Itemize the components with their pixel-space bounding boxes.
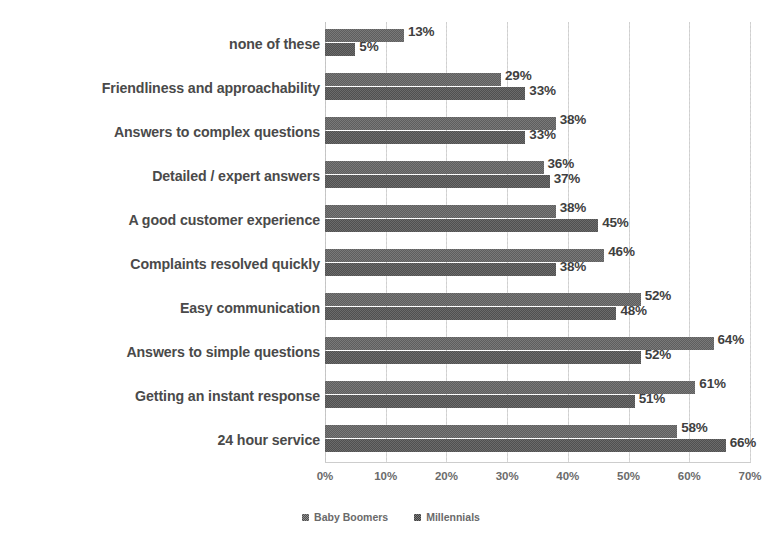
- bar-value-label: 48%: [620, 303, 646, 318]
- bar-millennials: [325, 219, 598, 232]
- bar-baby-boomers: [325, 117, 556, 130]
- bar-millennials: [325, 307, 616, 320]
- bar-value-label: 5%: [359, 39, 378, 54]
- category-label: 24 hour service: [4, 418, 320, 462]
- x-tick-label: 0%: [295, 470, 355, 482]
- bar-millennials: [325, 395, 635, 408]
- bar-millennials: [325, 131, 525, 144]
- category-row: none of these13%5%: [0, 22, 782, 66]
- x-tick-label: 10%: [356, 470, 416, 482]
- legend-item[interactable]: Millennials: [414, 511, 480, 523]
- bar-value-label: 38%: [560, 200, 586, 215]
- bar-millennials: [325, 87, 525, 100]
- category-label: Friendliness and approachability: [4, 66, 320, 110]
- category-label: Complaints resolved quickly: [4, 242, 320, 286]
- bar-value-label: 37%: [554, 171, 580, 186]
- category-row: A good customer experience38%45%: [0, 198, 782, 242]
- x-axis-tick-labels: 0%10%20%30%40%50%60%70%: [0, 470, 782, 490]
- category-label: Easy communication: [4, 286, 320, 330]
- bar-value-label: 36%: [548, 156, 574, 171]
- x-tick-label: 20%: [416, 470, 476, 482]
- bar-value-label: 61%: [699, 376, 725, 391]
- bar-value-label: 33%: [529, 83, 555, 98]
- bar-millennials: [325, 439, 726, 452]
- x-tick-label: 60%: [659, 470, 719, 482]
- category-row: Answers to simple questions64%52%: [0, 330, 782, 374]
- bar-value-label: 64%: [718, 332, 744, 347]
- category-row: Detailed / expert answers36%37%: [0, 154, 782, 198]
- category-row: Friendliness and approachability29%33%: [0, 66, 782, 110]
- bar-group: 58%66%: [325, 418, 765, 462]
- legend-item[interactable]: Baby Boomers: [302, 511, 388, 523]
- x-tick-label: 30%: [477, 470, 537, 482]
- bar-value-label: 51%: [639, 391, 665, 406]
- bar-group: 13%5%: [325, 22, 765, 66]
- bar-millennials: [325, 351, 641, 364]
- bar-millennials: [325, 43, 355, 56]
- x-tick-label: 50%: [599, 470, 659, 482]
- bar-group: 46%38%: [325, 242, 765, 286]
- bar-value-label: 29%: [505, 68, 531, 83]
- legend-swatch-icon: [414, 514, 421, 521]
- category-label: Answers to simple questions: [4, 330, 320, 374]
- bar-value-label: 38%: [560, 112, 586, 127]
- x-axis-line: [325, 462, 751, 463]
- x-tick-label: 40%: [538, 470, 598, 482]
- bar-group: 36%37%: [325, 154, 765, 198]
- bar-value-label: 46%: [608, 244, 634, 259]
- bar-group: 29%33%: [325, 66, 765, 110]
- bar-baby-boomers: [325, 73, 501, 86]
- bar-group: 61%51%: [325, 374, 765, 418]
- bar-baby-boomers: [325, 425, 677, 438]
- chart-legend: Baby BoomersMillennials: [0, 506, 782, 528]
- bar-baby-boomers: [325, 293, 641, 306]
- bar-value-label: 45%: [602, 215, 628, 230]
- legend-label: Millennials: [426, 511, 480, 523]
- bar-baby-boomers: [325, 161, 544, 174]
- bar-value-label: 33%: [529, 127, 555, 142]
- bar-chart: none of these13%5%Friendliness and appro…: [0, 0, 782, 543]
- category-label: Answers to complex questions: [4, 110, 320, 154]
- bar-value-label: 52%: [645, 347, 671, 362]
- bar-value-label: 52%: [645, 288, 671, 303]
- bar-value-label: 66%: [730, 435, 756, 450]
- category-rows: none of these13%5%Friendliness and appro…: [0, 22, 782, 462]
- legend-label: Baby Boomers: [314, 511, 388, 523]
- category-row: Getting an instant response61%51%: [0, 374, 782, 418]
- category-label: none of these: [4, 22, 320, 66]
- category-row: Complaints resolved quickly46%38%: [0, 242, 782, 286]
- bar-value-label: 38%: [560, 259, 586, 274]
- bar-group: 64%52%: [325, 330, 765, 374]
- category-row: Easy communication52%48%: [0, 286, 782, 330]
- bar-baby-boomers: [325, 205, 556, 218]
- category-row: Answers to complex questions38%33%: [0, 110, 782, 154]
- legend-swatch-icon: [302, 514, 309, 521]
- bar-group: 52%48%: [325, 286, 765, 330]
- x-tick-label: 70%: [720, 470, 780, 482]
- bar-group: 38%33%: [325, 110, 765, 154]
- bar-value-label: 58%: [681, 420, 707, 435]
- category-label: A good customer experience: [4, 198, 320, 242]
- bar-value-label: 13%: [408, 24, 434, 39]
- category-row: 24 hour service58%66%: [0, 418, 782, 462]
- category-label: Detailed / expert answers: [4, 154, 320, 198]
- category-label: Getting an instant response: [4, 374, 320, 418]
- bar-millennials: [325, 263, 556, 276]
- bar-millennials: [325, 175, 550, 188]
- bar-group: 38%45%: [325, 198, 765, 242]
